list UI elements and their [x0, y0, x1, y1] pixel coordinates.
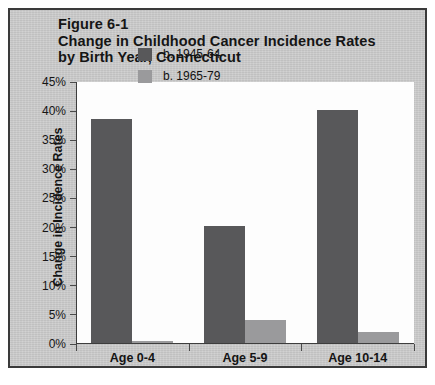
- x-axis-ticks: [76, 344, 414, 351]
- x-axis-label: Age 0-4: [76, 351, 189, 365]
- legend-label: b. 1965-79: [163, 69, 220, 83]
- y-axis-tick-label: 0%: [49, 337, 70, 351]
- bar-age-5-9-series-1[interactable]: [204, 226, 245, 344]
- x-axis-label: Age 5-9: [189, 351, 302, 365]
- figure-frame: Figure 6-1 Change in Childhood Cancer In…: [8, 8, 427, 368]
- figure-title: Figure 6-1 Change in Childhood Cancer In…: [58, 16, 420, 66]
- bar-group: [76, 82, 189, 344]
- legend-item[interactable]: b. 1945-64: [138, 43, 220, 65]
- chart-legend: b. 1945-64b. 1965-79: [138, 43, 220, 87]
- legend-swatch: [138, 48, 152, 61]
- x-axis-tick-mark: [76, 344, 77, 351]
- y-axis-line: [76, 82, 77, 344]
- legend-label: b. 1945-64: [163, 47, 220, 61]
- bar-group: [301, 82, 414, 344]
- bar-age-5-9-series-2[interactable]: [245, 320, 286, 344]
- x-axis-label: Age 10-14: [301, 351, 414, 365]
- y-axis-tick-label: 45%: [42, 75, 70, 89]
- y-axis-tick: 45%: [42, 75, 76, 89]
- bar-age-10-14-series-1[interactable]: [317, 110, 358, 344]
- bar-group: [189, 82, 302, 344]
- x-axis-labels: Age 0-4Age 5-9Age 10-14: [76, 351, 414, 365]
- legend-swatch: [138, 70, 152, 83]
- plot-area: 0%5%10%15%20%25%30%35%40%45%: [76, 82, 414, 344]
- x-axis-tick-mark: [189, 344, 190, 351]
- legend-item[interactable]: b. 1965-79: [138, 65, 220, 87]
- y-axis-title: Change in Incidence Rates: [51, 102, 65, 312]
- title-line-1: Figure 6-1: [58, 16, 420, 33]
- title-line-2: Change in Childhood Cancer Incidence Rat…: [58, 33, 420, 50]
- x-axis-tick-mark: [301, 344, 302, 351]
- x-axis-tick-mark: [414, 344, 415, 351]
- y-axis-tick: 0%: [49, 337, 76, 351]
- bar-age-0-4-series-1[interactable]: [91, 119, 132, 344]
- title-line-3: by Birth Year, Connecticut: [58, 49, 420, 66]
- bars-layer: [76, 82, 414, 344]
